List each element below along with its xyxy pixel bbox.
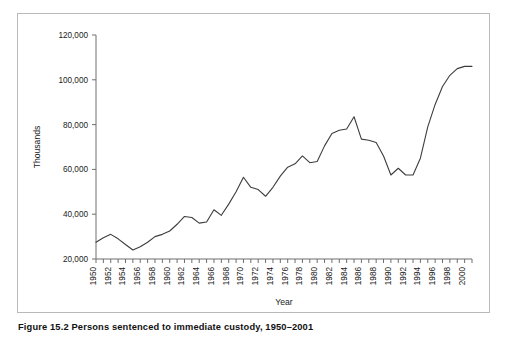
- x-axis-tick-label: 1974: [266, 267, 275, 286]
- x-axis-tick-label: 1964: [192, 267, 201, 286]
- x-axis-tick-label: 1994: [413, 267, 422, 286]
- x-axis-tick-label: 1972: [251, 267, 260, 286]
- figure-page: 120,000100,00080,00060,00040,00020,000 1…: [0, 0, 507, 338]
- x-axis-tick-label: 1984: [340, 267, 349, 286]
- x-axis-tick-label: 1956: [133, 267, 142, 286]
- y-axis-tick-labels: 120,000100,00080,00060,00040,00020,000: [58, 31, 88, 264]
- x-axis-tick-label: 1952: [104, 267, 113, 286]
- line-chart-svg: 120,000100,00080,00060,00040,00020,000 1…: [0, 0, 507, 338]
- x-axis-tick-labels: 1950195219541956195819601962196419661968…: [89, 267, 467, 286]
- y-axis-tick-label: 60,000: [63, 165, 88, 174]
- x-axis-tick-label: 1978: [295, 267, 304, 286]
- x-axis-tick-label: 1958: [148, 267, 157, 286]
- x-axis-tick-label: 1996: [428, 267, 437, 286]
- x-axis-tick-label: 1976: [281, 267, 290, 286]
- x-axis-tick-label: 1992: [399, 267, 408, 286]
- data-series-line: [96, 66, 472, 250]
- x-axis-ticks: [96, 259, 472, 263]
- x-axis-tick-label: 1960: [163, 267, 172, 286]
- x-axis-tick-label: 1988: [369, 267, 378, 286]
- y-axis-tick-label: 40,000: [63, 210, 88, 219]
- y-axis-tick-label: 120,000: [58, 31, 88, 40]
- chart-plot-area: 120,000100,00080,00060,00040,00020,000 1…: [0, 0, 507, 338]
- x-axis-tick-label: 2000: [458, 267, 467, 286]
- y-axis-title: Thousands: [32, 126, 42, 169]
- x-axis-tick-label: 1968: [222, 267, 231, 286]
- y-axis-tick-label: 80,000: [63, 121, 88, 130]
- x-axis-tick-label: 1986: [354, 267, 363, 286]
- figure-caption: Figure 15.2 Persons sentenced to immedia…: [18, 322, 488, 332]
- x-axis-tick-label: 1950: [89, 267, 98, 286]
- y-axis-ticks: [92, 35, 96, 259]
- x-axis-tick-label: 1970: [236, 267, 245, 286]
- x-axis-title: Year: [275, 297, 293, 307]
- x-axis-tick-label: 1990: [384, 267, 393, 286]
- x-axis-tick-label: 1962: [177, 267, 186, 286]
- x-axis-tick-label: 1980: [310, 267, 319, 286]
- y-axis-tick-label: 100,000: [58, 76, 88, 85]
- x-axis-tick-label: 1998: [443, 267, 452, 286]
- y-axis-tick-label: 20,000: [63, 255, 88, 264]
- x-axis-tick-label: 1954: [118, 267, 127, 286]
- x-axis-tick-label: 1982: [325, 267, 334, 286]
- x-axis-tick-label: 1966: [207, 267, 216, 286]
